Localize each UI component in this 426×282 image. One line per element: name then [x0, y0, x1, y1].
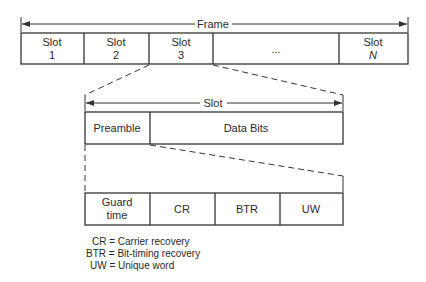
- legend-item-uw: UW = Unique word: [90, 260, 174, 271]
- slot-2-number: 2: [113, 49, 119, 61]
- slot-detail-row: Preamble Data Bits: [85, 112, 343, 144]
- preamble-detail-row: Guard time CR BTR UW: [85, 193, 343, 225]
- expand-line-right: [213, 65, 343, 95]
- tdma-frame-diagram: Frame Slot 1 Slot 2 Slot 3 ... Slot N Sl…: [0, 0, 426, 282]
- frame-label: Frame: [197, 18, 229, 30]
- slot-3-label: Slot: [172, 36, 191, 48]
- frame-box: [21, 33, 408, 64]
- slot-1-number: 1: [49, 49, 55, 61]
- slot-3-number: 3: [178, 49, 184, 61]
- preamble-field: Preamble: [93, 122, 140, 134]
- guard-time-field-line2: time: [107, 209, 128, 221]
- expand-line-preamble-right: [150, 145, 343, 176]
- slots-ellipsis: ...: [271, 43, 280, 55]
- btr-field: BTR: [236, 203, 258, 215]
- data-bits-field: Data Bits: [224, 122, 269, 134]
- slot-dimension-label: Slot: [204, 97, 223, 109]
- cr-field: CR: [174, 203, 190, 215]
- slot-1-label: Slot: [43, 36, 62, 48]
- slot-n-number: N: [369, 49, 377, 61]
- frame-slots-row: Slot 1 Slot 2 Slot 3 ... Slot N: [21, 33, 408, 64]
- slot-n-label: Slot: [364, 36, 383, 48]
- legend-item-btr: BTR = Bit-timing recovery: [86, 248, 200, 259]
- frame-dimension-arrow: Frame: [21, 17, 408, 32]
- legend-item-cr: CR = Carrier recovery: [92, 236, 190, 247]
- legend: CR = Carrier recovery BTR = Bit-timing r…: [86, 236, 200, 271]
- guard-time-field-line1: Guard: [102, 196, 133, 208]
- slot-dimension-arrow: Slot: [85, 95, 343, 111]
- slot-2-label: Slot: [107, 36, 126, 48]
- expand-line-left: [85, 65, 149, 95]
- uw-field: UW: [302, 203, 321, 215]
